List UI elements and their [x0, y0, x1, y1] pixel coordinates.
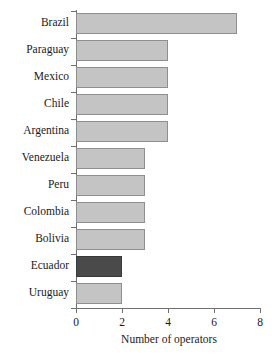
- bar-row: [76, 11, 276, 38]
- bar-bolivia: [76, 229, 145, 250]
- y-label-chile: Chile: [0, 97, 69, 110]
- bar-ecuador: [76, 256, 122, 277]
- x-tick-label: 4: [153, 315, 183, 329]
- y-label-brazil: Brazil: [0, 16, 69, 29]
- bar-row: [76, 281, 276, 308]
- bar-mexico: [76, 67, 168, 88]
- x-axis-tick-labels: 02468: [0, 315, 280, 331]
- y-label-argentina: Argentina: [0, 124, 69, 137]
- x-tick-label: 6: [199, 315, 229, 329]
- bar-chile: [76, 94, 168, 115]
- bar-series: [76, 11, 276, 308]
- bar-row: [76, 146, 276, 173]
- y-label-mexico: Mexico: [0, 70, 69, 83]
- bar-row: [76, 254, 276, 281]
- bar-row: [76, 227, 276, 254]
- y-label-bolivia: Bolivia: [0, 232, 69, 245]
- bar-peru: [76, 175, 145, 196]
- bar-row: [76, 173, 276, 200]
- x-axis-ticks: [76, 308, 266, 314]
- x-tick: [260, 308, 261, 313]
- x-tick: [122, 308, 123, 313]
- y-label-peru: Peru: [0, 178, 69, 191]
- y-label-ecuador: Ecuador: [0, 259, 69, 272]
- x-tick: [76, 308, 77, 313]
- bar-row: [76, 200, 276, 227]
- bar-colombia: [76, 202, 145, 223]
- bar-paraguay: [76, 40, 168, 61]
- x-tick: [168, 308, 169, 313]
- x-tick-label: 8: [245, 315, 275, 329]
- bar-row: [76, 92, 276, 119]
- bar-venezuela: [76, 148, 145, 169]
- bar-row: [76, 38, 276, 65]
- x-tick-label: 2: [107, 315, 137, 329]
- bar-chart: BrazilParaguayMexicoChileArgentinaVenezu…: [0, 0, 280, 357]
- y-label-uruguay: Uruguay: [0, 286, 69, 299]
- x-tick: [214, 308, 215, 313]
- y-axis-labels: BrazilParaguayMexicoChileArgentinaVenezu…: [0, 11, 69, 308]
- x-tick-label: 0: [61, 315, 91, 329]
- x-axis-title: Number of operators: [0, 333, 280, 345]
- bar-row: [76, 65, 276, 92]
- y-label-paraguay: Paraguay: [0, 43, 69, 56]
- bar-argentina: [76, 121, 168, 142]
- bar-brazil: [76, 13, 237, 34]
- y-label-venezuela: Venezuela: [0, 151, 69, 164]
- bar-row: [76, 119, 276, 146]
- y-label-colombia: Colombia: [0, 205, 69, 218]
- bar-uruguay: [76, 283, 122, 304]
